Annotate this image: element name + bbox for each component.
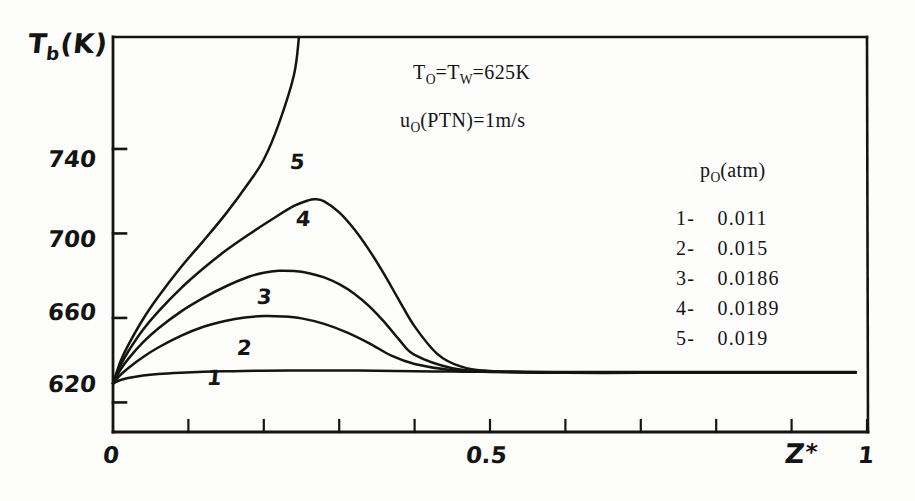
legend-value: 0.015 — [717, 237, 768, 259]
legend-value: 0.0189 — [717, 297, 779, 319]
y-tick-label-620: 620 — [48, 373, 96, 396]
curve-label-2: 2 — [237, 338, 252, 359]
legend-value: 0.011 — [717, 207, 767, 229]
curve-label-4: 4 — [296, 209, 311, 230]
figure-container: Tb(K) Z* 740 700 660 620 0 0.5 1 TO=TW=6… — [0, 0, 915, 501]
curve-label-5: 5 — [290, 152, 305, 173]
y-tick-label-660: 660 — [48, 301, 96, 324]
legend-key: 5- — [676, 327, 695, 349]
x-tick-label-0-5: 0.5 — [466, 444, 507, 467]
legend-key: 4- — [676, 297, 695, 319]
curve-label-3: 3 — [257, 287, 272, 308]
y-tick-label-740: 740 — [48, 148, 96, 171]
legend-value: 0.019 — [717, 327, 768, 349]
legend-item-5: 5- 0.019 — [676, 328, 768, 348]
x-tick-label-1: 1 — [858, 444, 874, 467]
legend-title: pO(atm) — [700, 160, 766, 185]
legend-key: 1- — [676, 207, 695, 229]
legend-item-4: 4- 0.0189 — [676, 298, 780, 318]
annotation-temperature: TO=TW=625K — [413, 62, 530, 87]
x-axis-title: Z* — [785, 440, 818, 467]
legend-item-3: 3- 0.0186 — [676, 268, 780, 288]
x-tick-label-0: 0 — [103, 444, 119, 467]
annotation-velocity: uO(PTN)=1m/s — [400, 110, 526, 135]
curve-label-1: 1 — [207, 368, 222, 389]
y-tick-label-700: 700 — [48, 228, 96, 251]
legend-value: 0.0186 — [717, 267, 779, 289]
y-axis-title: Tb(K) — [28, 30, 107, 63]
legend-key: 2- — [676, 237, 695, 259]
legend-item-1: 1- 0.011 — [676, 208, 768, 228]
axis-ticks — [113, 149, 867, 432]
legend-key: 3- — [676, 267, 695, 289]
legend-item-2: 2- 0.015 — [676, 238, 768, 258]
